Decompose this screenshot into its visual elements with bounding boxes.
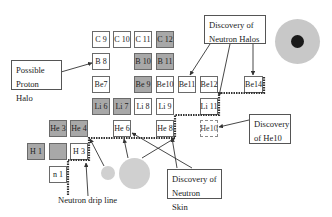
proton-halo-annotation: Possible Proton Halo: [11, 60, 62, 90]
he10-annotation: Discovery of He10: [249, 114, 291, 144]
neutron-skin-annotation: Discovery of Neutron Skin: [167, 169, 222, 199]
neutron-halos-line1: Discovery of: [209, 18, 261, 32]
proton-halo-line1: Possible: [16, 63, 57, 77]
neutron-halos-line2: Neutron Halos: [209, 32, 261, 46]
neutron-skin-line2: Neutron Skin: [172, 186, 217, 214]
proton-halo-line2: Proton Halo: [16, 77, 57, 105]
neutron-skin-line1: Discovery of: [172, 172, 217, 186]
arrows-and-drip-line: [0, 0, 332, 217]
neutron-drip-line-label: Neutron drip line: [58, 195, 117, 205]
neutron-halos-annotation: Discovery of Neutron Halos: [204, 15, 266, 44]
he10-line2: of He10: [254, 131, 286, 145]
he10-line1: Discovery: [254, 117, 286, 131]
